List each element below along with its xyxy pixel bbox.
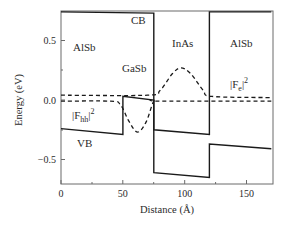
annotations: AlSb CB GaSb InAs AlSb |Fe|2 |Fhh|2 VB bbox=[72, 14, 253, 149]
x-tick-label: 0 bbox=[59, 188, 64, 199]
x-tick-label: 50 bbox=[118, 188, 128, 199]
x-tick-label: 100 bbox=[177, 188, 192, 199]
x-tick-label: 150 bbox=[239, 188, 254, 199]
y-axis: 0.5 0.0 −0.5 Energy (eV) bbox=[13, 35, 65, 165]
y-tick-label: 0.5 bbox=[44, 35, 57, 46]
band-diagram-chart: 0.5 0.0 −0.5 Energy (eV) 0 50 100 150 Di… bbox=[0, 0, 286, 228]
band-label-cb: CB bbox=[131, 14, 146, 26]
x-axis: 0 50 100 150 Distance (Å) bbox=[59, 180, 255, 216]
y-tick-label: 0.0 bbox=[44, 95, 57, 106]
x-axis-label: Distance (Å) bbox=[140, 204, 194, 216]
wavefunction-label-fe: |Fe|2 bbox=[230, 76, 248, 93]
region-label-gasb: GaSb bbox=[122, 62, 147, 74]
band-label-vb: VB bbox=[77, 137, 92, 149]
wavefunction-label-fhh: |Fhh|2 bbox=[72, 107, 95, 124]
region-label-inas: InAs bbox=[172, 37, 193, 49]
series-cb bbox=[61, 12, 271, 135]
y-axis-label: Energy (eV) bbox=[13, 74, 25, 126]
y-tick-label: −0.5 bbox=[38, 154, 56, 165]
region-label-alsb-left: AlSb bbox=[73, 41, 96, 53]
region-label-alsb-right: AlSb bbox=[230, 37, 253, 49]
series-f-e-2 bbox=[61, 68, 271, 98]
